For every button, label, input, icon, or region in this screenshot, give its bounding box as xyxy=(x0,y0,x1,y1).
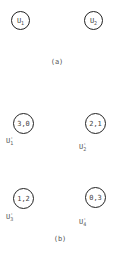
label-u1-prime: U'1 xyxy=(6,138,13,145)
node-u1: U1 xyxy=(11,11,30,30)
node-u2: U2 xyxy=(84,11,103,30)
node-value: 0,3 xyxy=(89,194,102,202)
label-u3-prime: U'3 xyxy=(6,214,13,221)
node-value: 1,2 xyxy=(17,195,30,203)
node-u1-prime: 3,0 xyxy=(13,113,34,134)
label-u4-prime: U'4 xyxy=(79,219,86,226)
node-u2-prime: 2,1 xyxy=(85,113,106,134)
node-u2-label: U2 xyxy=(90,17,97,25)
node-value: 2,1 xyxy=(89,120,102,128)
caption-a: (a) xyxy=(51,58,64,66)
caption-b: (b) xyxy=(54,235,67,243)
node-value: 3,0 xyxy=(17,120,30,128)
node-u4-prime: 0,3 xyxy=(85,187,106,208)
node-u1-label: U1 xyxy=(17,17,24,25)
label-u2-prime: U'2 xyxy=(79,144,86,151)
node-u3-prime: 1,2 xyxy=(13,188,34,209)
